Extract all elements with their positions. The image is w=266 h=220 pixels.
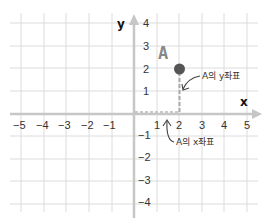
coordinate-plane: A y x 4 3 2 1 −1 −2 −3 −4 −5 −4 −3 −2 −1…	[0, 0, 266, 220]
y-annotation-arrow-icon	[183, 76, 200, 89]
point-a	[174, 64, 185, 75]
y-tick-neg3: −3	[138, 174, 151, 186]
x-tick-2: 2	[176, 119, 182, 131]
x-tick-neg5: −5	[13, 119, 26, 131]
x-tick-3: 3	[199, 119, 205, 131]
y-tick-neg2: −2	[138, 151, 151, 163]
x-axis-arrow-icon	[252, 109, 262, 119]
y-axis-arrow-icon	[129, 14, 139, 25]
x-tick-neg4: −4	[36, 119, 49, 131]
y-axis-label: y	[117, 17, 125, 31]
y-tick-1: 1	[143, 85, 149, 97]
coordinate-plane-svg: A y x 4 3 2 1 −1 −2 −3 −4 −5 −4 −3 −2 −1…	[0, 0, 266, 220]
y-tick-3: 3	[143, 40, 149, 52]
x-annotation-arrow-icon	[167, 121, 174, 142]
x-coordinate-annotation: A의 x좌표	[176, 137, 214, 147]
x-axis-label: x	[240, 95, 248, 109]
y-tick-2: 2	[143, 63, 149, 75]
point-a-label: A	[158, 43, 168, 63]
x-tick-5: 5	[244, 119, 250, 131]
x-tick-1: 1	[154, 119, 160, 131]
x-tick-4: 4	[221, 119, 227, 131]
x-tick-neg2: −2	[81, 119, 94, 131]
y-tick-neg4: −4	[138, 196, 151, 208]
y-tick-4: 4	[143, 17, 149, 29]
y-tick-neg1: −1	[138, 129, 151, 141]
x-tick-neg3: −3	[58, 119, 71, 131]
y-coordinate-annotation: A의 y좌표	[202, 71, 240, 81]
x-tick-neg1: −1	[103, 119, 116, 131]
